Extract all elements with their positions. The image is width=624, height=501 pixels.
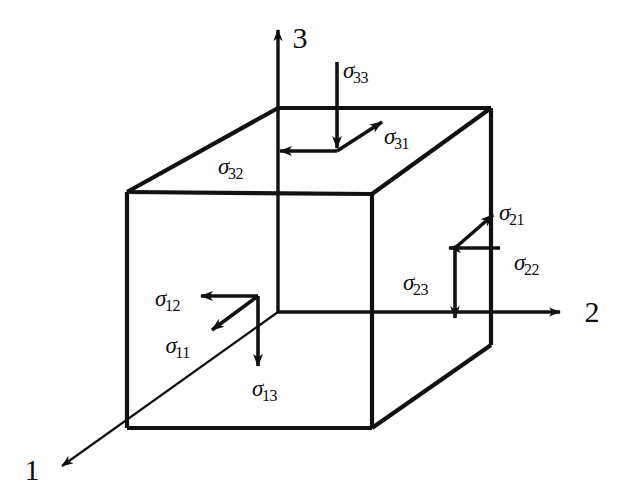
sigma-11-label: σ11 bbox=[165, 334, 190, 357]
sigma-31-label: σ31 bbox=[384, 125, 410, 148]
sigma-13-label: σ13 bbox=[252, 377, 278, 400]
cube-right-face bbox=[372, 108, 491, 428]
sigma-23-subscript: 23 bbox=[413, 281, 428, 298]
axis-1-label: 1 bbox=[25, 453, 40, 487]
stress-cube-figure: 1 2 3 σ33 σ31 σ32 σ21 σ22 σ23 σ12 σ11 σ1… bbox=[0, 0, 624, 501]
front-face-stress-arrows bbox=[201, 296, 258, 366]
sigma-13-subscript: 13 bbox=[262, 387, 277, 404]
sigma-32-label: σ32 bbox=[218, 155, 244, 178]
sigma-31-subscript: 31 bbox=[394, 135, 409, 152]
sigma-22-subscript: 22 bbox=[524, 261, 539, 278]
sigma-32-subscript: 32 bbox=[228, 165, 243, 182]
sigma-12-label: σ12 bbox=[155, 287, 181, 310]
sigma-21-arrow bbox=[455, 215, 493, 248]
axis-3-label: 3 bbox=[293, 21, 308, 55]
sigma-21-label: σ21 bbox=[499, 201, 525, 224]
sigma-21-subscript: 21 bbox=[509, 211, 524, 228]
sigma-33-subscript: 33 bbox=[353, 69, 368, 86]
sigma-11-arrow bbox=[212, 296, 258, 330]
axis-2-label: 2 bbox=[585, 295, 600, 329]
sigma-22-label: σ22 bbox=[514, 251, 540, 274]
sigma-33-label: σ33 bbox=[343, 59, 369, 82]
sigma-23-label: σ23 bbox=[403, 271, 429, 294]
sigma-12-subscript: 12 bbox=[165, 297, 180, 314]
sigma-31-arrow bbox=[337, 122, 382, 151]
sigma-11-subscript: 11 bbox=[175, 344, 189, 361]
